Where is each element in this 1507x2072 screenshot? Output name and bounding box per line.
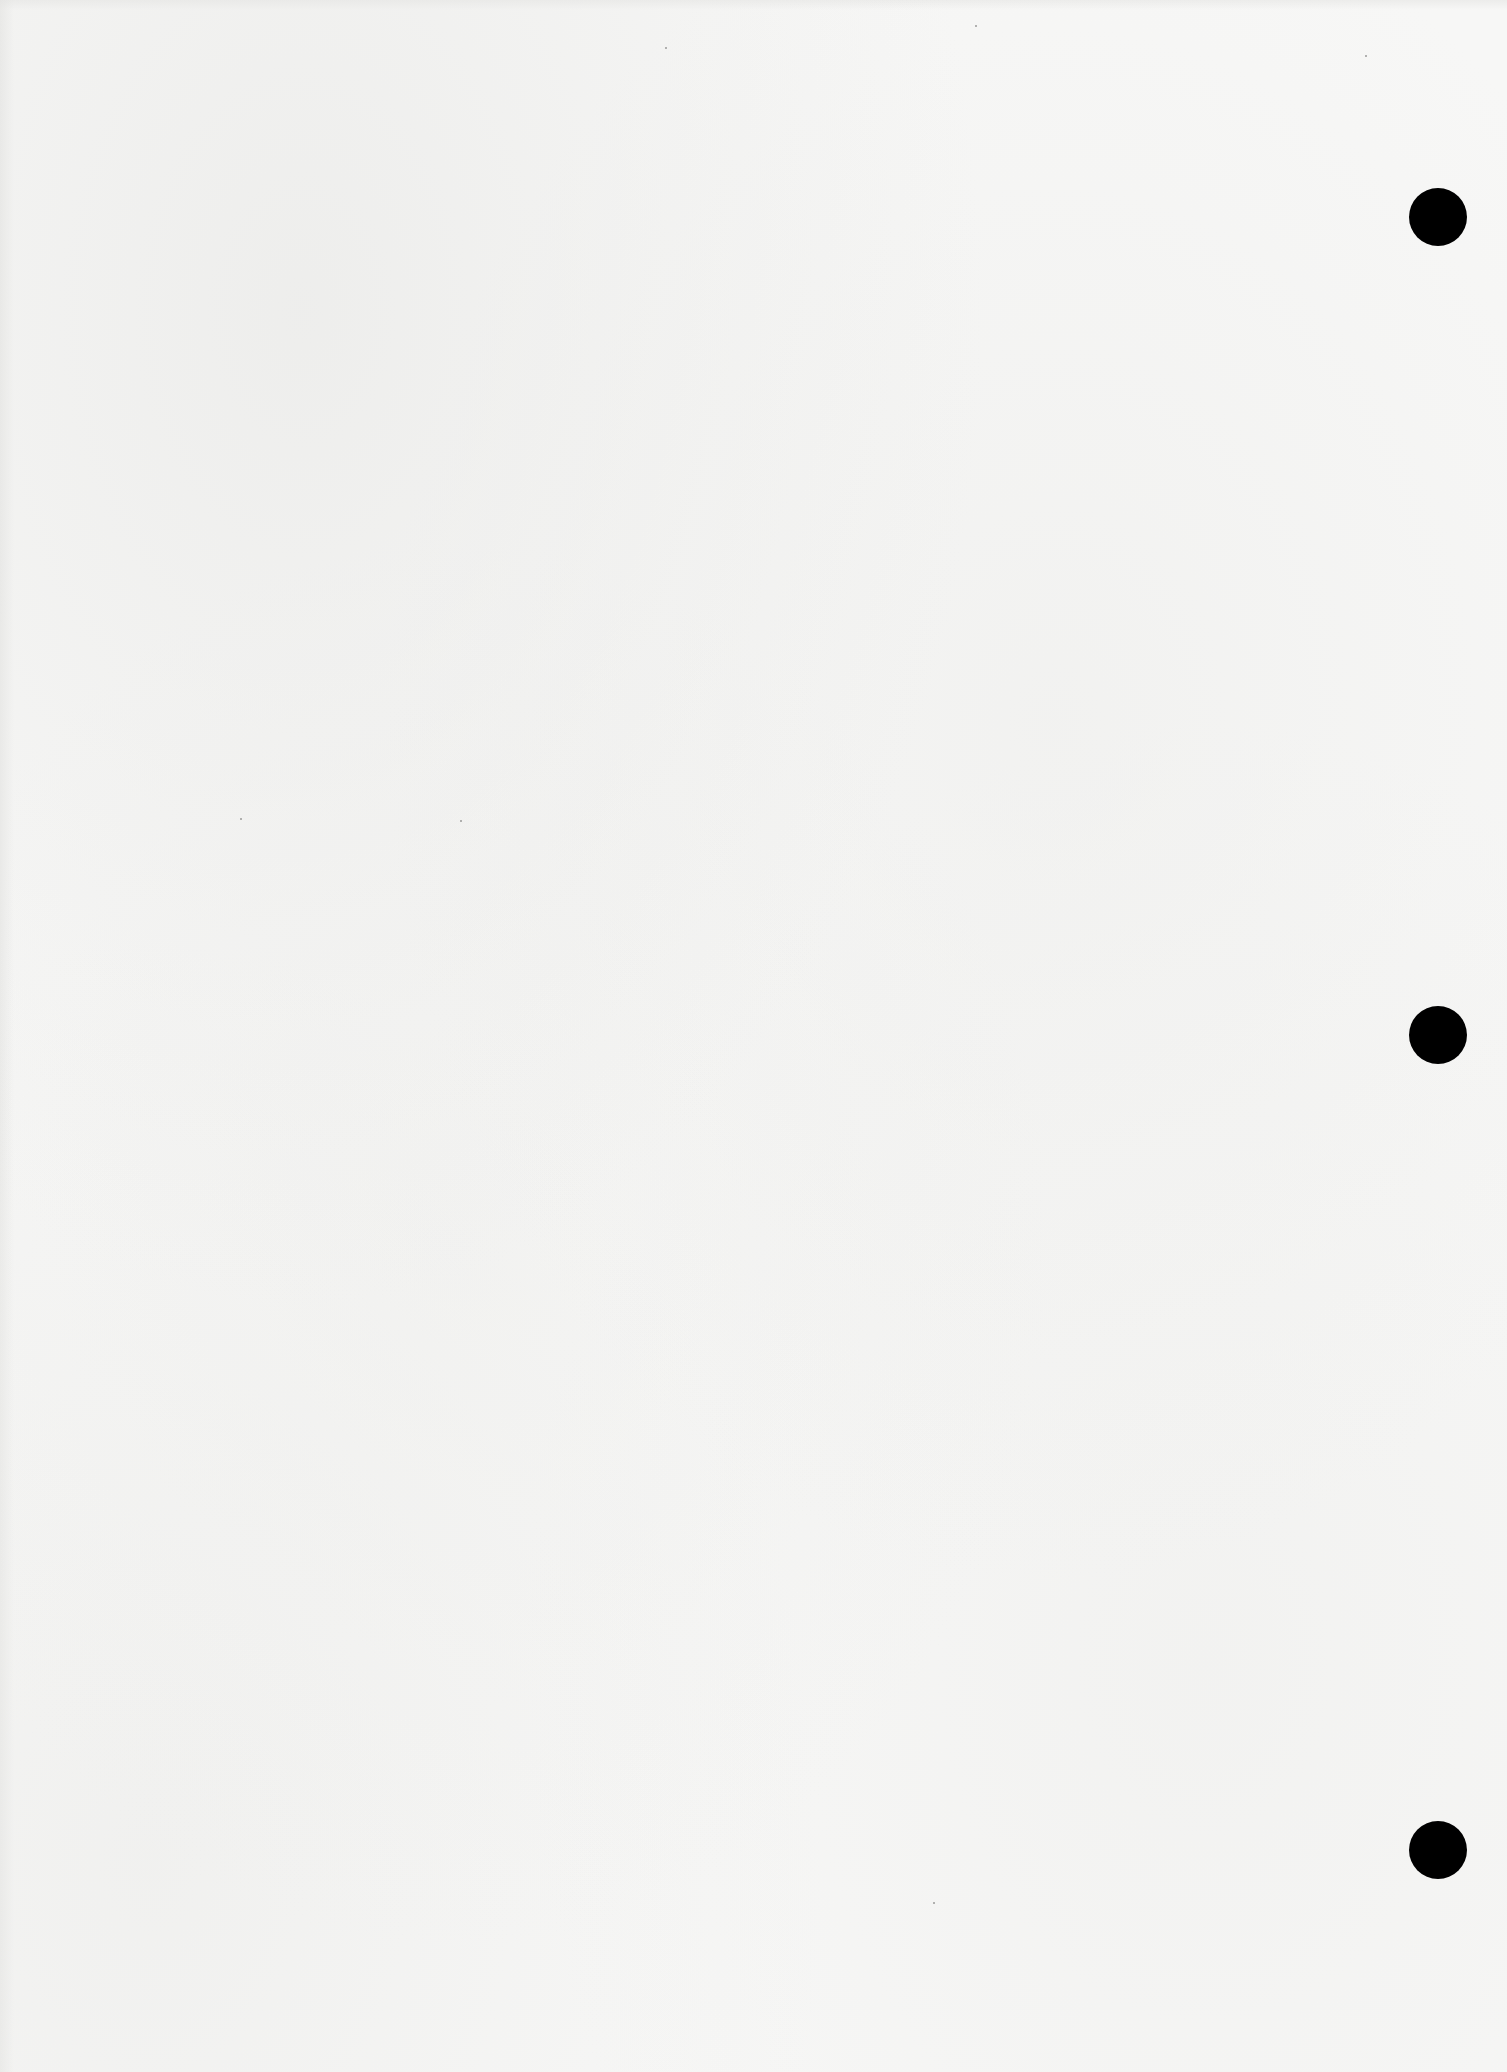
blank-document-page — [0, 0, 1507, 2072]
paper-speck — [240, 818, 242, 820]
paper-speck — [975, 25, 977, 27]
paper-speck — [665, 47, 667, 49]
punch-hole-middle — [1409, 1006, 1467, 1064]
paper-speck — [1365, 55, 1367, 57]
paper-speck — [933, 1902, 935, 1904]
punch-hole-top — [1409, 188, 1467, 246]
paper-speck — [460, 820, 462, 822]
punch-hole-bottom — [1409, 1821, 1467, 1879]
